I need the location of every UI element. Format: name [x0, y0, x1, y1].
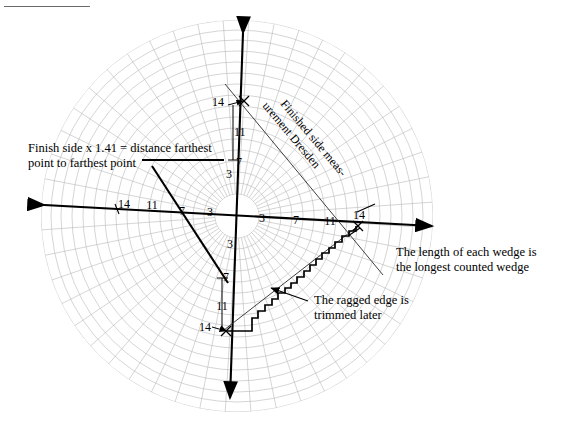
grid-spoke [241, 238, 276, 408]
grid-spoke [173, 31, 230, 195]
tick-up-7: 7 [236, 155, 242, 169]
tick-left-3: 3 [207, 205, 213, 219]
finished-side-diagonal [225, 84, 383, 275]
tick-left-14: 14 [118, 197, 130, 211]
grid-spoke [107, 69, 222, 199]
tick-right-14: 14 [353, 208, 365, 222]
tick-left-11: 11 [146, 198, 158, 212]
ragged-annotation-line1: The ragged edge is [314, 293, 409, 307]
diagram-canvas: 3 7 11 14 3 7 11 14 3 7 11 14 3 7 11 14 … [0, 0, 564, 434]
right-annotation-line1: The length of each wedge is [396, 245, 537, 259]
grid-spoke [62, 226, 218, 304]
grid-spoke [259, 202, 433, 214]
tick-right-7: 7 [293, 213, 299, 227]
grid-spoke [75, 228, 219, 325]
tick-down-3: 3 [227, 237, 233, 251]
right-annotation-line2: the longest counted wedge [396, 260, 529, 274]
tick-up-11: 11 [234, 125, 246, 139]
tick-left-7: 7 [179, 204, 185, 218]
tick-down-11: 11 [216, 299, 228, 313]
tick-right-3: 3 [259, 211, 265, 225]
tick-down-14: 14 [199, 320, 211, 334]
tick-up-3: 3 [226, 167, 232, 181]
tick-right-11: 11 [324, 214, 336, 228]
tick-up-14: 14 [212, 95, 224, 109]
diagonal-annotation: Finished side meas- urement Dresden [260, 89, 350, 188]
left-annotation-line2: point to farthest point [28, 156, 136, 170]
grid-spoke [239, 238, 251, 412]
grid-spoke [259, 177, 429, 212]
grid-spoke [52, 223, 216, 280]
ragged-annotation-line2: trimmed later [314, 308, 383, 322]
tick-down-7: 7 [223, 270, 229, 284]
left-annotation-line1: Finish side x 1.41 = distance farthest [28, 141, 212, 155]
grid-spoke [149, 41, 227, 197]
grid-spoke [127, 54, 224, 198]
polar-quilt-diagram: 3 7 11 14 3 7 11 14 3 7 11 14 3 7 11 14 … [0, 0, 564, 434]
